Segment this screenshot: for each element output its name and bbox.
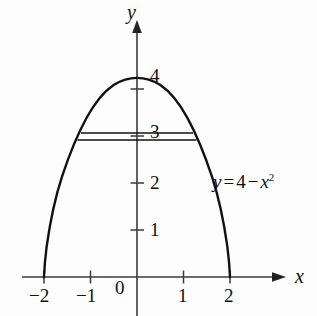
- y-axis-label: y: [127, 2, 136, 22]
- x-tick-label--2: −2: [29, 286, 49, 305]
- equation-variable: x: [260, 171, 268, 192]
- curve-equation-label: y=4−x2: [213, 172, 274, 191]
- x-axis-arrow-icon: [272, 272, 286, 282]
- origin-label: 0: [115, 278, 125, 297]
- equation-constant: 4: [236, 171, 246, 192]
- equation-minus: −: [246, 171, 261, 192]
- x-tick-label-1: 1: [178, 286, 188, 305]
- y-tick-label-3: 3: [150, 122, 160, 141]
- y-tick-label-2: 2: [150, 173, 160, 192]
- x-tick-label--1: −1: [76, 286, 96, 305]
- y-tick-label-4: 4: [150, 66, 160, 85]
- parabola-figure: y x 0 −2 −1 1 2 1 2 3 4 y=4−x2: [0, 0, 317, 316]
- plot-canvas: [0, 0, 317, 316]
- x-axis-label: x: [295, 266, 304, 286]
- equation-exponent: 2: [269, 171, 275, 183]
- equation-equals: =: [221, 171, 236, 192]
- x-tick-label-2: 2: [224, 286, 234, 305]
- y-tick-label-1: 1: [150, 220, 160, 239]
